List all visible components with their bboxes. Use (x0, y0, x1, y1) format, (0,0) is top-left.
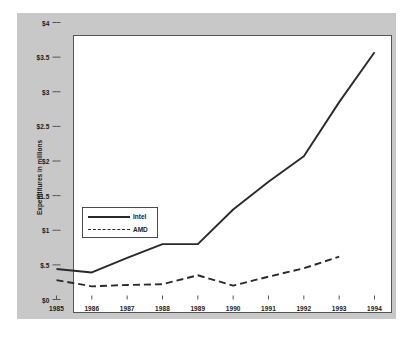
y-tick-label: $3 (17, 88, 50, 95)
y-tick-label: $0 (17, 296, 50, 303)
x-tick-label: 1991 (261, 305, 276, 312)
legend-line-sample-solid (88, 216, 130, 218)
legend-entry-amd: AMD (83, 223, 157, 237)
x-tick-label: 1989 (190, 305, 205, 312)
y-tick-label: $1.5 (17, 192, 50, 199)
legend-line-sample-dashed (88, 229, 130, 230)
x-tick-label: 1985 (49, 305, 64, 312)
figure-panel: $0$.5$1$1.5$2$2.5$3$3.5$4 19851986198719… (17, 13, 396, 319)
y-tick-label: $2.5 (17, 123, 50, 130)
y-tick-label: $1 (17, 227, 50, 234)
legend-entry-intel: Intel (83, 210, 157, 224)
y-tick-label: $2 (17, 158, 50, 165)
legend-label-amd: AMD (133, 226, 148, 233)
y-axis-title: Expenditures in millions (36, 98, 43, 258)
y-tick-label: $4 (17, 19, 50, 26)
x-tick-label: 1990 (226, 305, 241, 312)
x-tick-label: 1994 (367, 305, 382, 312)
x-tick-label: 1993 (332, 305, 347, 312)
chart-legend: Intel AMD (82, 207, 158, 238)
chart-figure: $0$.5$1$1.5$2$2.5$3$3.5$4 19851986198719… (0, 0, 415, 340)
x-tick-label: 1986 (84, 305, 99, 312)
x-tick-label: 1987 (120, 305, 135, 312)
y-tick-label: $3.5 (17, 54, 50, 61)
x-tick-label: 1988 (155, 305, 170, 312)
x-tick-label: 1992 (296, 305, 311, 312)
plot-canvas (73, 35, 392, 313)
y-tick-label: $.5 (17, 261, 50, 268)
legend-label-intel: Intel (133, 213, 146, 220)
